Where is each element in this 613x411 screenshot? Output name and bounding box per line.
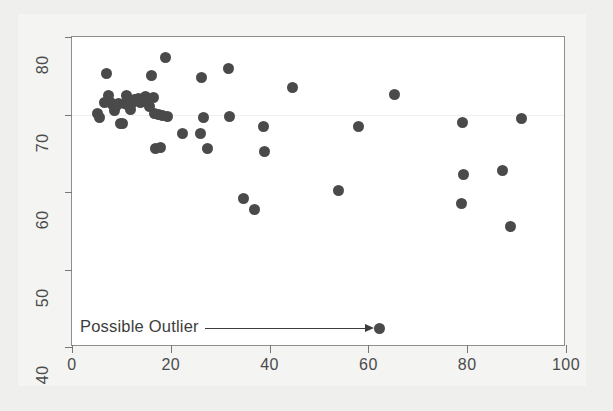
data-point (497, 165, 508, 176)
x-tick-40 (270, 345, 271, 353)
data-point (196, 72, 207, 83)
data-point (333, 185, 344, 196)
x-tick-80 (467, 345, 468, 353)
y-tick-label-40: 40 (34, 365, 52, 384)
data-point (238, 193, 249, 204)
data-point (177, 128, 188, 139)
data-point (117, 118, 128, 129)
data-point (249, 204, 260, 215)
y-tick-label-70: 70 (34, 133, 52, 152)
x-tick-0 (72, 345, 73, 353)
data-point (202, 143, 213, 154)
scatter-plot-figure: 4050607080 020406080100 Possible Outlier (0, 0, 613, 411)
data-point (224, 111, 235, 122)
y-tick-80 (65, 37, 72, 38)
data-point (287, 82, 298, 93)
plot-area: 4050607080 020406080100 Possible Outlier (71, 36, 565, 346)
data-point (162, 111, 173, 122)
data-point (195, 128, 206, 139)
y-tick-50 (65, 270, 72, 271)
x-tick-60 (368, 345, 369, 353)
y-tick-40 (65, 347, 72, 348)
data-point (223, 63, 234, 74)
gridline-y-70 (72, 115, 564, 116)
y-tick-60 (65, 192, 72, 193)
data-point (505, 221, 516, 232)
data-point (148, 92, 159, 103)
x-tick-label-80: 80 (458, 356, 477, 374)
data-point (160, 52, 171, 63)
y-tick-label-80: 80 (34, 55, 52, 74)
y-tick-70 (65, 115, 72, 116)
annotation-arrow-head-icon (365, 324, 374, 332)
data-point (258, 121, 269, 132)
annotation-arrow-line (205, 328, 366, 330)
x-tick-label-0: 0 (67, 356, 76, 374)
data-point (259, 146, 270, 157)
data-point (456, 198, 467, 209)
x-tick-label-60: 60 (359, 356, 378, 374)
y-tick-label-60: 60 (34, 210, 52, 229)
data-point (101, 68, 112, 79)
data-point (353, 121, 364, 132)
data-point (457, 117, 468, 128)
x-tick-label-40: 40 (260, 356, 279, 374)
data-point (94, 112, 105, 123)
x-tick-100 (566, 345, 567, 353)
x-tick-label-20: 20 (161, 356, 180, 374)
x-tick-label-100: 100 (552, 356, 580, 374)
data-point (155, 142, 166, 153)
annotation-label-possible-outlier: Possible Outlier (80, 317, 199, 336)
data-point (516, 113, 527, 124)
x-tick-20 (171, 345, 172, 353)
data-point (389, 89, 400, 100)
data-point (146, 70, 157, 81)
y-tick-label-50: 50 (34, 288, 52, 307)
data-point (198, 112, 209, 123)
data-point (374, 323, 385, 334)
data-point (458, 169, 469, 180)
